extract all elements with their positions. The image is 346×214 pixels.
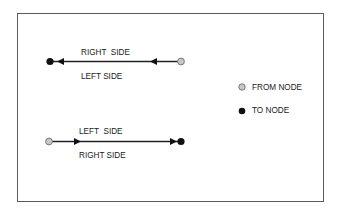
arrowhead-top-mid <box>150 58 157 65</box>
legend-label-from-node: FROM NODE <box>252 83 303 92</box>
link-top-label-above: RIGHT SIDE <box>81 48 131 57</box>
link-top: RIGHT SIDE LEFT SIDE <box>46 48 184 82</box>
arrowhead-top-left <box>57 58 64 65</box>
legend-item-to-node: TO NODE <box>239 106 290 115</box>
to-node-legend-icon <box>239 108 246 115</box>
link-bottom: LEFT SIDE RIGHT SIDE <box>46 127 185 160</box>
from-node-top <box>178 58 185 65</box>
arrowhead-bottom-mid <box>74 138 81 145</box>
arrowhead-bottom-right <box>170 138 177 145</box>
from-node-legend-icon <box>239 84 245 90</box>
link-bottom-label-below: RIGHT SIDE <box>79 151 126 160</box>
legend: FROM NODE TO NODE <box>239 83 303 115</box>
to-node-bottom <box>177 138 184 145</box>
link-top-label-below: LEFT SIDE <box>81 72 123 81</box>
legend-item-from-node: FROM NODE <box>239 83 303 92</box>
legend-label-to-node: TO NODE <box>252 106 290 115</box>
diagram-canvas: RIGHT SIDE LEFT SIDE LEFT SIDE RIGHT SID… <box>0 0 346 214</box>
link-bottom-label-above: LEFT SIDE <box>79 127 123 136</box>
to-node-top <box>46 58 53 65</box>
from-node-bottom <box>46 138 53 145</box>
